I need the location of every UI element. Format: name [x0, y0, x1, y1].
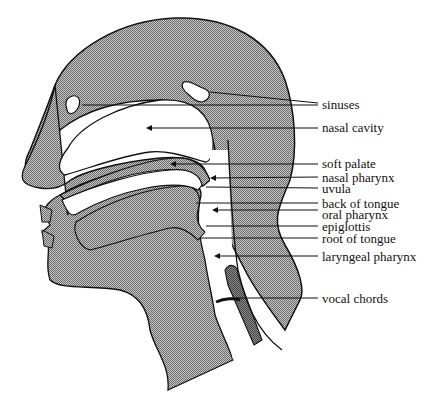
label-vocal-chords: vocal chords	[322, 292, 388, 305]
label-sinuses: sinuses	[322, 98, 360, 111]
label-uvula: uvula	[322, 182, 351, 195]
label-soft-palate: soft palate	[322, 157, 376, 170]
label-laryngeal-pharynx: laryngeal pharynx	[322, 250, 416, 263]
vocal-tract-diagram: sinuses nasal cavity soft palate nasal p…	[0, 0, 426, 399]
label-nasal-cavity: nasal cavity	[322, 121, 384, 134]
label-root-of-tongue: root of tongue	[322, 232, 396, 245]
